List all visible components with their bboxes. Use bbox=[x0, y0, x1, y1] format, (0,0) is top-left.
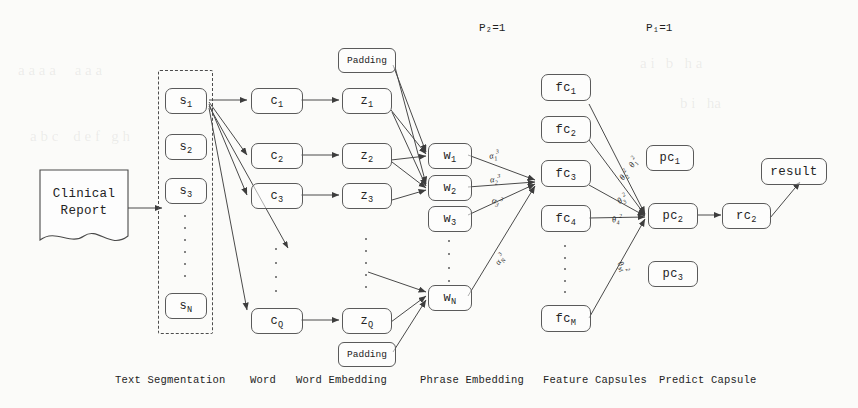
node-w1-label: w1 bbox=[443, 149, 456, 163]
node-fc3[interactable]: fc3 bbox=[541, 160, 591, 187]
node-w2-label: w2 bbox=[443, 181, 456, 195]
node-fc1-label: fc1 bbox=[556, 81, 577, 95]
node-z2-label: z2 bbox=[360, 149, 373, 163]
top-label-p2: P₂=1 bbox=[479, 22, 505, 34]
sentence-ellipsis bbox=[183, 215, 187, 277]
node-w1[interactable]: w1 bbox=[428, 143, 472, 169]
node-c3-label: c3 bbox=[270, 189, 283, 203]
node-w3-label: w3 bbox=[443, 212, 456, 226]
node-padding-bottom[interactable]: Padding bbox=[338, 342, 396, 367]
node-fc2-label: fc2 bbox=[556, 123, 577, 137]
node-padding-top-label: Padding bbox=[347, 55, 387, 66]
caption-predict-capsule: Predict Capsule bbox=[659, 374, 757, 386]
phrase-ellipsis bbox=[447, 240, 451, 282]
figure-canvas: a a a a a a a a b c d e f g h a i b h a … bbox=[0, 0, 858, 408]
node-pc1[interactable]: pc1 bbox=[646, 145, 694, 171]
node-wN-label: wN bbox=[443, 291, 456, 305]
node-result[interactable]: result bbox=[761, 158, 827, 185]
node-pc3-label: pc3 bbox=[663, 267, 684, 281]
node-s3[interactable]: s3 bbox=[165, 178, 207, 204]
node-zQ[interactable]: zQ bbox=[342, 308, 392, 334]
node-sN-label: sN bbox=[179, 299, 192, 313]
scan-artifact: a b c d e f g h bbox=[30, 128, 130, 145]
node-fc3-label: fc3 bbox=[556, 167, 577, 181]
node-cQ-label: cQ bbox=[270, 314, 283, 328]
edge-label-theta-3-2: θ32 bbox=[615, 192, 629, 206]
node-fc1[interactable]: fc1 bbox=[541, 74, 591, 101]
edge-label-theta-4-2: θ42 bbox=[612, 213, 623, 224]
scan-artifact: b i ha bbox=[680, 95, 721, 112]
edge-label-alpha-2-3: α23 bbox=[490, 173, 501, 184]
edge-label-alpha-3-3: α33 bbox=[491, 195, 504, 208]
node-c1-label: c1 bbox=[270, 94, 283, 108]
caption-feature-capsules: Feature Capsules bbox=[543, 374, 647, 386]
feature-capsule-ellipsis bbox=[563, 245, 567, 293]
node-c2[interactable]: c2 bbox=[251, 143, 303, 169]
node-padding-bottom-label: Padding bbox=[347, 349, 387, 360]
node-wN[interactable]: wN bbox=[428, 285, 472, 311]
node-fcM-label: fcM bbox=[556, 312, 577, 326]
node-s1-label: s1 bbox=[179, 94, 192, 108]
node-z2[interactable]: z2 bbox=[342, 143, 392, 169]
edge-label-alpha-N-3: αN3 bbox=[492, 251, 507, 266]
node-z1[interactable]: z1 bbox=[342, 88, 392, 114]
node-pc2[interactable]: pc2 bbox=[648, 203, 698, 229]
scan-artifact: a i b h a bbox=[640, 55, 702, 72]
word-embedding-ellipsis bbox=[364, 238, 368, 288]
caption-word: Word bbox=[250, 374, 276, 386]
node-z3[interactable]: z3 bbox=[342, 183, 392, 209]
top-label-p1: P₁=1 bbox=[646, 22, 672, 34]
node-fcM[interactable]: fcM bbox=[541, 305, 591, 332]
edge-label-theta-1-2: θ12 bbox=[626, 155, 640, 169]
node-w2[interactable]: w2 bbox=[428, 175, 472, 201]
node-s2[interactable]: s2 bbox=[165, 134, 207, 160]
node-fc4-label: fc4 bbox=[556, 212, 577, 226]
node-s3-label: s3 bbox=[179, 184, 192, 198]
node-s2-label: s2 bbox=[179, 140, 192, 154]
node-pc3[interactable]: pc3 bbox=[648, 261, 698, 287]
edge-label-alpha-1-3: α13 bbox=[488, 149, 500, 161]
node-result-label: result bbox=[770, 165, 817, 179]
clinical-report-line2: Report bbox=[38, 203, 130, 220]
node-rc2-label: rc2 bbox=[736, 209, 757, 223]
node-zQ-label: zQ bbox=[360, 314, 373, 328]
node-pc2-label: pc2 bbox=[663, 209, 684, 223]
node-padding-top[interactable]: Padding bbox=[338, 48, 396, 73]
node-c3[interactable]: c3 bbox=[251, 183, 303, 209]
caption-text-segmentation: Text Segmentation bbox=[115, 374, 226, 386]
node-c2-label: c2 bbox=[270, 149, 283, 163]
clinical-report-line1: Clinical bbox=[38, 186, 130, 203]
edge-label-theta-2-2: θ22 bbox=[617, 168, 631, 182]
word-ellipsis bbox=[274, 248, 278, 292]
node-z3-label: z3 bbox=[360, 189, 373, 203]
node-c1[interactable]: c1 bbox=[251, 88, 303, 114]
node-w3[interactable]: w3 bbox=[428, 206, 472, 232]
node-cQ[interactable]: cQ bbox=[251, 308, 303, 334]
clinical-report-label: Clinical Report bbox=[38, 186, 130, 220]
node-fc2[interactable]: fc2 bbox=[541, 116, 591, 143]
caption-word-embedding: Word Embedding bbox=[296, 374, 387, 386]
edge-label-theta-M-2: θM2 bbox=[616, 259, 631, 275]
caption-phrase-embedding: Phrase Embedding bbox=[420, 374, 524, 386]
node-pc1-label: pc1 bbox=[660, 151, 681, 165]
node-rc2[interactable]: rc2 bbox=[722, 203, 771, 229]
node-sN[interactable]: sN bbox=[165, 293, 207, 319]
node-z1-label: z1 bbox=[360, 94, 373, 108]
node-fc4[interactable]: fc4 bbox=[541, 205, 591, 232]
scan-artifact: a a a a a a a bbox=[18, 62, 102, 79]
node-s1[interactable]: s1 bbox=[165, 88, 207, 114]
